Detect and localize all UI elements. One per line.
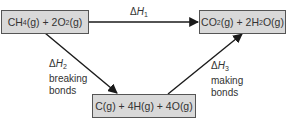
atoms-box: C(g) + 4H(g) + 4O(g) <box>92 94 196 118</box>
atoms-text: C(g) + 4H(g) + 4O(g) <box>95 100 192 112</box>
reactants-box: CH4(g) + 2O2(g) <box>1 10 89 34</box>
symbol: H <box>137 6 144 17</box>
products-text: CO <box>201 16 217 28</box>
dh2-line2: bonds <box>49 85 87 97</box>
reactants-text: (g) <box>69 16 82 28</box>
dh1-label: ΔH1 <box>130 6 148 21</box>
dh3-line1: making <box>211 75 243 87</box>
delta: Δ <box>49 58 56 69</box>
symbol: H <box>56 58 63 69</box>
reactants-text: CH <box>8 16 23 28</box>
delta: Δ <box>130 6 137 17</box>
dh3-line2: bonds <box>211 87 243 99</box>
delta: Δ <box>211 60 218 71</box>
sub: 1 <box>144 11 148 18</box>
sub: 2 <box>63 63 67 70</box>
symbol: H <box>218 60 225 71</box>
dh2-line1: breaking <box>49 73 87 85</box>
dh2-label: ΔH2 breaking bonds <box>49 58 87 97</box>
sub: 3 <box>225 65 229 72</box>
products-text: (g) + 2H <box>221 16 259 28</box>
reactants-text: (g) + 2O <box>27 16 66 28</box>
dh3-label: ΔH3 making bonds <box>211 60 243 99</box>
products-text: O(g) <box>263 16 284 28</box>
products-box: CO2(g) + 2H2O(g) <box>199 10 286 34</box>
